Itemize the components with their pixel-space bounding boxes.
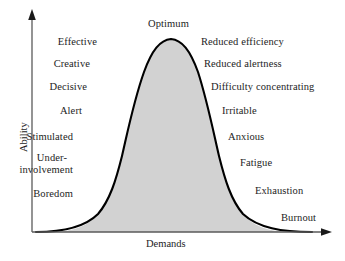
label-decisive: Decisive — [49, 81, 87, 93]
label-irritable: Irritable — [222, 105, 257, 117]
label-stimulated: Stimulated — [27, 131, 74, 143]
label-effective: Effective — [58, 36, 97, 48]
label-reduced-alertness: Reduced alertness — [204, 58, 282, 70]
label-reduced-efficiency: Reduced efficiency — [201, 36, 284, 48]
human-function-curve-figure: Ability Demands Optimum Effective Creati… — [0, 0, 345, 261]
x-axis-title: Demands — [146, 238, 186, 249]
label-difficulty-concentrating: Difficulty concentrating — [211, 81, 314, 93]
label-fatigue: Fatigue — [240, 157, 272, 169]
label-burnout: Burnout — [281, 212, 316, 224]
label-under-involvement-line1: Under- — [37, 152, 67, 164]
label-anxious: Anxious — [228, 131, 264, 143]
peak-label-optimum: Optimum — [148, 18, 189, 30]
y-axis-arrowhead — [28, 9, 36, 20]
label-alert: Alert — [60, 105, 82, 117]
label-creative: Creative — [54, 58, 90, 70]
label-exhaustion: Exhaustion — [255, 185, 303, 197]
label-boredom: Boredom — [33, 188, 73, 200]
label-under-involvement-line2: involvement — [19, 164, 73, 176]
x-axis-arrowhead — [321, 228, 332, 236]
